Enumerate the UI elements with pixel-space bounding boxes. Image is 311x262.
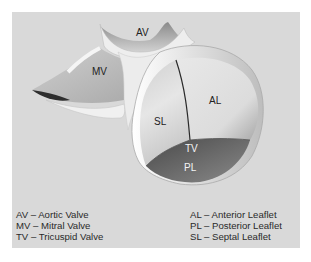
legend-item: TV – Tricuspid Valve <box>16 231 103 242</box>
legend-item: AL – Anterior Leaflet <box>190 209 282 220</box>
legend-item: SL – Septal Leaflet <box>190 231 282 242</box>
label-mv: MV <box>92 67 107 77</box>
label-al: AL <box>209 96 221 106</box>
legend-leaflets: AL – Anterior Leaflet PL – Posterior Lea… <box>190 209 282 242</box>
label-pl: PL <box>184 163 196 173</box>
legend-item: MV – Mitral Valve <box>16 220 103 231</box>
label-tv: TV <box>185 144 198 154</box>
legend-valves: AV – Aortic Valve MV – Mitral Valve TV –… <box>16 209 103 242</box>
label-av: AV <box>136 28 149 38</box>
label-sl: SL <box>154 117 166 127</box>
legend-item: PL – Posterior Leaflet <box>190 220 282 231</box>
legend-item: AV – Aortic Valve <box>16 209 103 220</box>
